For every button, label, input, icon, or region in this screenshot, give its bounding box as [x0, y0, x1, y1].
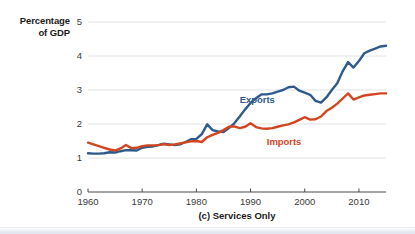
x-tick-label-1990: 1990 — [231, 197, 271, 207]
x-tick-label-2010: 2010 — [339, 197, 379, 207]
y-tick-label-2: 2 — [68, 119, 82, 129]
series-line-imports — [88, 93, 386, 150]
series-label-imports: Imports — [267, 136, 302, 147]
series-lines — [88, 46, 386, 154]
gridlines — [88, 22, 386, 158]
y-tick-label-5: 5 — [68, 17, 82, 27]
chart-caption: (c) Services Only — [88, 210, 386, 221]
y-tick-label-1: 1 — [68, 153, 82, 163]
x-tick-label-1960: 1960 — [68, 197, 108, 207]
x-tick-label-1970: 1970 — [122, 197, 162, 207]
x-tick-label-2000: 2000 — [285, 197, 325, 207]
y-tick-label-4: 4 — [68, 51, 82, 61]
series-label-exports: Exports — [240, 94, 275, 105]
x-tick-label-1980: 1980 — [176, 197, 216, 207]
chart-figure: Percentage of GDP 012345 196019701980199… — [0, 0, 415, 234]
page-bottom-edge — [0, 228, 415, 234]
y-tick-label-3: 3 — [68, 85, 82, 95]
